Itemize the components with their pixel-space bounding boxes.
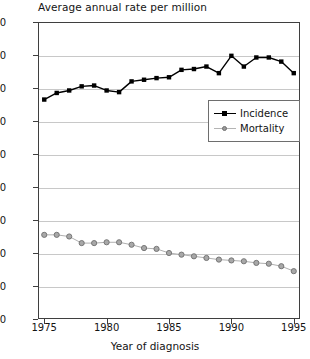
y-tick-label: 60 [0,215,6,226]
y-tick-mark [33,55,38,56]
y-tick-mark [33,319,38,320]
legend-label-incidence: Incidence [240,108,288,119]
x-tick-mark [294,319,295,324]
x-tick-mark [107,319,108,324]
y-tick-mark [33,154,38,155]
chart-figure: Average annual rate per million 18016014… [0,0,310,359]
y-tick-label: 20 [0,281,6,292]
gridline [39,287,299,288]
y-tick-label: 140 [0,83,6,94]
chart-title: Average annual rate per million [38,1,207,13]
y-tick-mark [33,220,38,221]
y-tick-label: 160 [0,50,6,61]
x-tick-mark [169,319,170,324]
incidence-line-marker-icon [214,108,236,119]
y-tick-label: 40 [0,248,6,259]
legend-item-mortality[interactable]: Mortality [214,121,295,136]
y-tick-mark [33,22,38,23]
chart-legend: Incidence Mortality [208,100,300,142]
gridline [39,221,299,222]
y-tick-mark [33,187,38,188]
y-tick-mark [33,88,38,89]
x-tick-mark [44,319,45,324]
x-axis-title: Year of diagnosis [0,340,310,352]
y-tick-mark [33,253,38,254]
y-tick-label: 80 [0,182,6,193]
gridline [39,188,299,189]
gridline [39,56,299,57]
y-tick-label: 100 [0,149,6,160]
legend-item-incidence[interactable]: Incidence [214,106,295,121]
x-tick-mark [231,319,232,324]
gridline [39,89,299,90]
y-tick-label: 120 [0,116,6,127]
y-tick-mark [33,286,38,287]
y-tick-mark [33,121,38,122]
plot-area [38,22,300,319]
y-tick-label: 0 [0,314,6,325]
mortality-line-marker-icon [214,123,236,134]
gridline [39,254,299,255]
legend-label-mortality: Mortality [240,123,284,134]
gridline [39,155,299,156]
y-tick-label: 180 [0,17,6,28]
